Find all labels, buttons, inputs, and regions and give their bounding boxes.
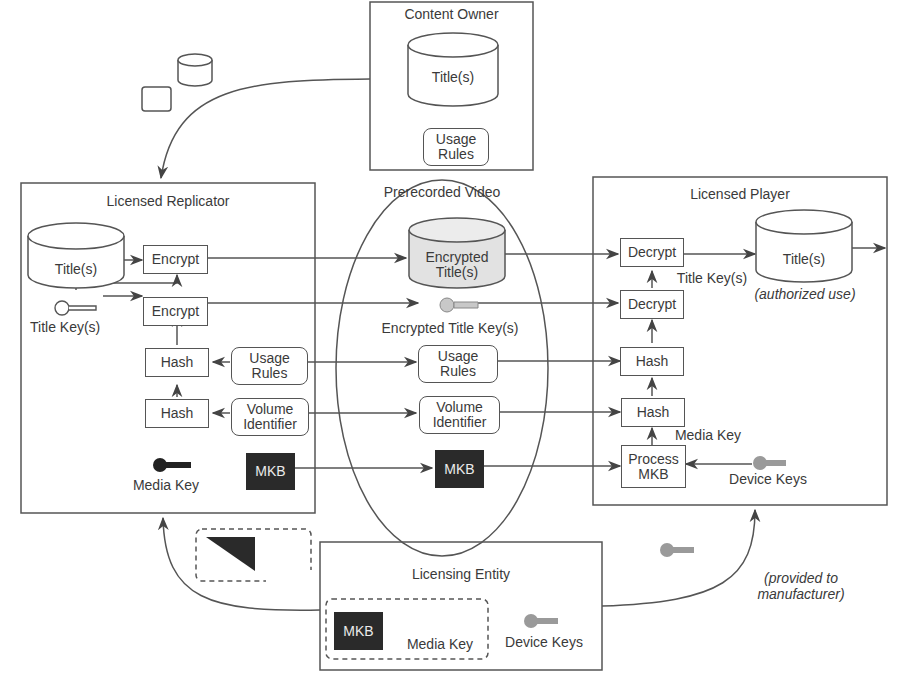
replicator-titles: Title(s) xyxy=(28,262,124,277)
replicator-encrypt-title-keys: Encrypt xyxy=(143,297,208,326)
player-process-mkb: Process MKB xyxy=(621,445,686,488)
provided-to-manufacturer-note: (provided to manufacturer) xyxy=(746,570,856,602)
licensing-entity-title: Licensing Entity xyxy=(320,566,602,582)
licensed-replicator-title: Licensed Replicator xyxy=(21,193,315,209)
player-hash-usage: Hash xyxy=(620,347,684,376)
licensing-entity-device-keys-label: Device Keys xyxy=(496,634,592,650)
authorized-use-label: (authorized use) xyxy=(746,286,864,302)
player-device-keys-label: Device Keys xyxy=(722,471,814,487)
replicator-mkb: MKB xyxy=(246,453,295,490)
player-title-keys-label: Title Key(s) xyxy=(666,270,758,286)
licensed-player-title: Licensed Player xyxy=(593,186,887,202)
encrypted-titles: Encrypted Title(s) xyxy=(409,250,505,280)
replicator-usage-rules: Usage Rules xyxy=(231,347,308,385)
player-decrypt-title-keys: Decrypt xyxy=(620,290,684,319)
player-titles: Title(s) xyxy=(756,252,852,267)
player-media-key-label: Media Key xyxy=(668,427,748,443)
replicator-hash-volume: Hash xyxy=(145,399,209,428)
video-mkb: MKB xyxy=(435,450,484,488)
video-usage-rules: Usage Rules xyxy=(418,345,498,383)
content-owner-title: Content Owner xyxy=(370,6,533,22)
replicator-volume-identifier: Volume Identifier xyxy=(231,398,309,436)
content-owner-titles: Title(s) xyxy=(408,70,498,85)
replicator-encrypt-titles: Encrypt xyxy=(143,245,208,274)
licensing-entity-media-key-label: Media Key xyxy=(398,636,482,652)
prerecorded-video-title: Prerecorded Video xyxy=(372,184,512,200)
encrypted-title-keys-label: Encrypted Title Key(s) xyxy=(370,320,530,336)
video-volume-identifier: Volume Identifier xyxy=(419,396,500,434)
replicator-media-key-label: Media Key xyxy=(130,477,202,493)
replicator-title-keys-label: Title Key(s) xyxy=(30,319,100,335)
licensing-entity-mkb: MKB xyxy=(334,612,383,650)
replicator-hash-usage: Hash xyxy=(145,348,209,377)
player-decrypt-titles: Decrypt xyxy=(620,238,684,267)
player-hash-volume: Hash xyxy=(621,398,685,427)
content-owner-usage-rules: Usage Rules xyxy=(423,128,489,166)
